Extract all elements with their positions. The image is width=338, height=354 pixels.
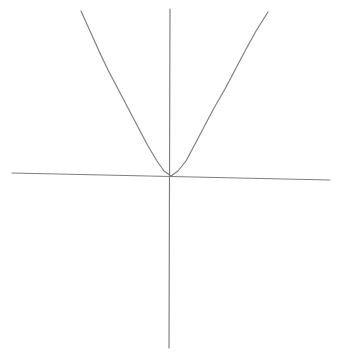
y-axis-line bbox=[169, 9, 170, 348]
parabola-curve bbox=[81, 11, 268, 176]
graph-svg bbox=[0, 0, 338, 354]
graph-figure-canvas bbox=[0, 0, 338, 354]
